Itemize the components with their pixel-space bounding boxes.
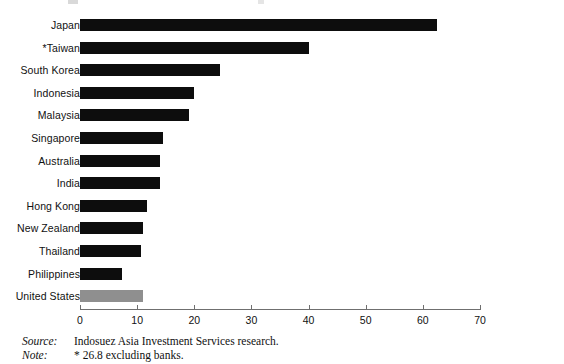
bar-track xyxy=(80,155,160,167)
bar-track xyxy=(80,245,141,257)
bar-track xyxy=(80,268,122,280)
x-axis-tick xyxy=(194,305,195,310)
category-label: Australia xyxy=(38,155,80,167)
x-axis-line xyxy=(80,309,480,310)
category-label: Philippines xyxy=(28,268,80,280)
bar-row: Malaysia xyxy=(0,104,564,126)
cropped-title-remnant-secondary xyxy=(258,0,264,4)
bar xyxy=(80,290,143,302)
bar xyxy=(80,64,220,76)
footnote-line: Note:* 26.8 excluding banks. xyxy=(22,349,562,363)
x-axis-tick xyxy=(137,305,138,310)
cropped-title-remnant xyxy=(68,0,78,4)
bar xyxy=(80,200,147,212)
plot-area: Japan*TaiwanSouth KoreaIndonesiaMalaysia… xyxy=(0,14,564,309)
category-label: Malaysia xyxy=(38,109,80,121)
bar-track xyxy=(80,19,437,31)
x-axis-tick xyxy=(480,305,481,310)
bar xyxy=(80,155,160,167)
footnote-key: Source: xyxy=(22,335,74,347)
x-axis-tick xyxy=(80,305,81,310)
bar xyxy=(80,109,189,121)
bar-track xyxy=(80,177,160,189)
bar-row: Indonesia xyxy=(0,82,564,104)
bar-row: South Korea xyxy=(0,59,564,81)
bar-row: United States xyxy=(0,285,564,307)
bar xyxy=(80,177,160,189)
bar-chart-figure: Japan*TaiwanSouth KoreaIndonesiaMalaysia… xyxy=(0,0,564,364)
footnote-value: Indosuez Asia Investment Services resear… xyxy=(74,335,279,347)
category-label: *Taiwan xyxy=(43,42,80,54)
bar xyxy=(80,132,163,144)
bar-row: Thailand xyxy=(0,240,564,262)
bar xyxy=(80,87,194,99)
bar-track xyxy=(80,132,163,144)
bar xyxy=(80,222,143,234)
bar-track xyxy=(80,87,194,99)
bar-row: Philippines xyxy=(0,263,564,285)
bar-row: Australia xyxy=(0,150,564,172)
x-axis-tick-label: 20 xyxy=(188,314,200,326)
footnotes: Source:Indosuez Asia Investment Services… xyxy=(22,335,562,363)
x-axis-tick xyxy=(423,305,424,310)
bar xyxy=(80,245,141,257)
bar-track xyxy=(80,222,143,234)
category-label: South Korea xyxy=(21,64,80,76)
bar-track xyxy=(80,42,309,54)
x-axis-tick-label: 40 xyxy=(303,314,315,326)
bar xyxy=(80,42,309,54)
x-axis-tick-label: 60 xyxy=(417,314,429,326)
category-label: Singapore xyxy=(31,132,80,144)
x-axis: 010203040506070 xyxy=(0,309,564,335)
bar-row: India xyxy=(0,172,564,194)
bar-track xyxy=(80,64,220,76)
bar-row: Japan xyxy=(0,14,564,36)
category-label: Hong Kong xyxy=(27,200,80,212)
x-axis-tick xyxy=(366,305,367,310)
footnote-value: * 26.8 excluding banks. xyxy=(74,349,184,361)
bar-track xyxy=(80,109,189,121)
bar xyxy=(80,19,437,31)
bar xyxy=(80,268,122,280)
category-label: Indonesia xyxy=(34,87,80,99)
x-axis-tick-label: 0 xyxy=(77,314,83,326)
x-axis-tick-label: 10 xyxy=(131,314,143,326)
bar-track xyxy=(80,290,143,302)
x-axis-tick-label: 50 xyxy=(360,314,372,326)
category-label: United States xyxy=(16,290,80,302)
bar-row: Singapore xyxy=(0,127,564,149)
bar-row: New Zealand xyxy=(0,217,564,239)
bar-row: Hong Kong xyxy=(0,195,564,217)
bar-row: *Taiwan xyxy=(0,37,564,59)
footnote-key: Note: xyxy=(22,349,74,361)
category-label: New Zealand xyxy=(17,222,80,234)
x-axis-tick xyxy=(251,305,252,310)
x-axis-tick-label: 30 xyxy=(246,314,258,326)
x-axis-tick xyxy=(309,305,310,310)
category-label: Thailand xyxy=(39,245,80,257)
category-label: Japan xyxy=(51,19,80,31)
x-axis-tick-label: 70 xyxy=(474,314,486,326)
category-label: India xyxy=(57,177,80,189)
bar-track xyxy=(80,200,147,212)
footnote-line: Source:Indosuez Asia Investment Services… xyxy=(22,335,562,349)
